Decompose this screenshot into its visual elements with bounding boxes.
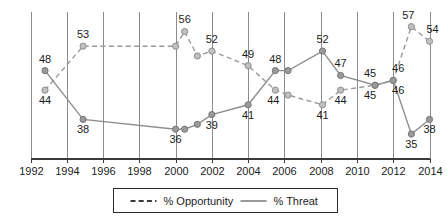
x-tick-label-2008: 2008 — [309, 165, 333, 177]
data-label-opportunity-41: 41 — [316, 109, 328, 121]
chart-legend: % Opportunity% Threat — [114, 189, 338, 213]
data-point-opportunity-6 — [245, 63, 251, 69]
data-label-threat-52: 52 — [316, 33, 328, 45]
data-label-opportunity-57: 57 — [402, 9, 414, 21]
data-label-opportunity-45: 45 — [364, 89, 376, 101]
data-label-opportunity-46: 46 — [392, 84, 404, 96]
series-lines — [45, 27, 429, 134]
data-label-opportunity-53: 53 — [77, 28, 89, 40]
data-point-labels: 4453565249444144454657544838363941485247… — [39, 9, 439, 150]
data-point-threat-4 — [194, 121, 200, 127]
series-markers — [42, 24, 433, 138]
data-point-threat-3 — [182, 126, 188, 132]
data-label-opportunity-49: 49 — [242, 48, 254, 60]
x-axis-tick-labels: 1992199419961998200020022004200620082010… — [19, 165, 442, 177]
data-point-threat-10 — [338, 72, 344, 78]
data-point-opportunity-0 — [42, 87, 48, 93]
data-point-opportunity-10 — [338, 87, 344, 93]
data-point-threat-13 — [408, 131, 414, 137]
data-label-opportunity-44: 44 — [335, 94, 347, 106]
data-label-threat-48: 48 — [39, 53, 51, 65]
data-label-threat-41: 41 — [242, 109, 254, 121]
data-point-threat-9 — [319, 48, 325, 54]
line-chart: 1992199419961998200020022004200620082010… — [0, 0, 447, 220]
data-point-opportunity-3 — [182, 28, 188, 34]
x-tick-label-2002: 2002 — [200, 165, 224, 177]
x-tick-label-2000: 2000 — [164, 165, 188, 177]
data-point-threat-11 — [372, 82, 378, 88]
x-tick-label-2004: 2004 — [236, 165, 260, 177]
data-label-threat-38: 38 — [77, 123, 89, 135]
data-point-opportunity-14 — [426, 38, 432, 44]
chart-canvas: 1992199419961998200020022004200620082010… — [0, 0, 447, 220]
data-label-threat-46: 46 — [392, 62, 404, 74]
data-point-threat-7 — [272, 68, 278, 74]
data-label-threat-39: 39 — [206, 119, 218, 131]
data-label-opportunity-44: 44 — [267, 94, 279, 106]
data-label-opportunity-44: 44 — [39, 94, 51, 106]
x-tick-label-1996: 1996 — [91, 165, 115, 177]
legend-label-opportunity: % Opportunity — [164, 195, 234, 207]
data-point-opportunity-7 — [272, 87, 278, 93]
x-tick-label-1992: 1992 — [19, 165, 43, 177]
data-point-threat-2 — [172, 126, 178, 132]
data-point-opportunity-2 — [172, 43, 178, 49]
data-label-threat-47: 47 — [335, 57, 347, 69]
data-point-opportunity-1 — [80, 43, 86, 49]
data-point-opportunity-13 — [408, 24, 414, 30]
data-point-threat-8 — [285, 68, 291, 74]
data-point-opportunity-9 — [319, 102, 325, 108]
data-label-threat-45: 45 — [364, 67, 376, 79]
data-label-threat-36: 36 — [169, 133, 181, 145]
x-tick-label-1994: 1994 — [55, 165, 79, 177]
data-point-threat-5 — [209, 111, 215, 117]
data-label-opportunity-52: 52 — [206, 33, 218, 45]
data-point-threat-1 — [80, 116, 86, 122]
data-point-opportunity-5 — [209, 48, 215, 54]
data-point-opportunity-8 — [285, 92, 291, 98]
x-tick-label-1998: 1998 — [127, 165, 151, 177]
legend-label-threat: % Threat — [274, 195, 318, 207]
data-point-threat-12 — [390, 77, 396, 83]
data-label-threat-38: 38 — [423, 123, 435, 135]
x-tick-label-2014: 2014 — [418, 165, 442, 177]
data-point-threat-6 — [245, 102, 251, 108]
data-label-threat-48: 48 — [269, 53, 281, 65]
data-point-opportunity-4 — [194, 53, 200, 59]
data-point-threat-0 — [42, 68, 48, 74]
data-label-opportunity-56: 56 — [179, 13, 191, 25]
data-point-threat-14 — [426, 116, 432, 122]
x-tick-label-2012: 2012 — [381, 165, 405, 177]
x-tick-label-2006: 2006 — [272, 165, 296, 177]
x-tick-label-2010: 2010 — [345, 165, 369, 177]
data-label-threat-35: 35 — [405, 138, 417, 150]
data-label-opportunity-54: 54 — [426, 23, 438, 35]
